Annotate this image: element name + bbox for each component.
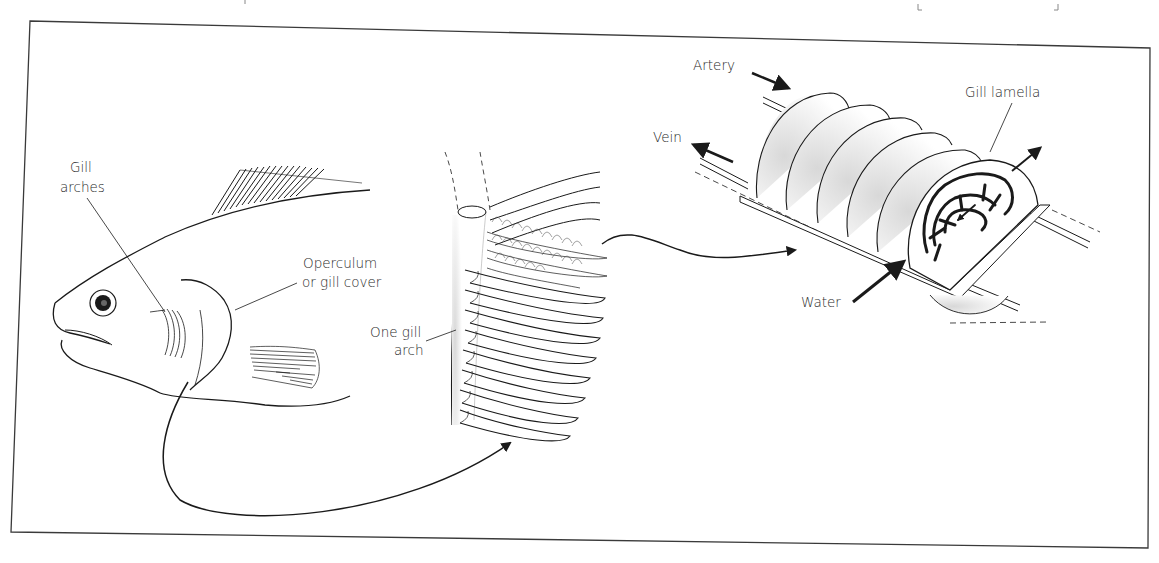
label-gill-lamella: Gill lamella bbox=[965, 84, 1040, 100]
label-operculum-1: Operculum bbox=[303, 255, 377, 271]
dorsal-fin bbox=[212, 166, 362, 215]
leader-gill-arches bbox=[87, 198, 165, 312]
leader-one-gill-arch bbox=[426, 330, 456, 341]
label-gill-arches-1: Gill bbox=[70, 159, 92, 175]
gill-arch-illustration bbox=[445, 152, 607, 441]
label-operculum-2: or gill cover bbox=[302, 274, 382, 290]
vein-arrow bbox=[694, 145, 733, 162]
label-artery: Artery bbox=[693, 57, 735, 73]
water-arrow bbox=[853, 262, 903, 302]
label-gill-arches-2: arches bbox=[60, 179, 105, 195]
label-one-gill-arch-1: One gill bbox=[370, 324, 421, 340]
label-water: Water bbox=[801, 294, 841, 310]
leader-operculum bbox=[235, 283, 297, 310]
figure-frame bbox=[11, 21, 1150, 548]
pectoral-fin bbox=[250, 346, 319, 388]
artery-arrow bbox=[752, 73, 788, 88]
gill-diagram: Gill arches Operculum or gill cover bbox=[0, 0, 1159, 563]
leader-gill-lamella bbox=[990, 103, 1012, 152]
scan-marks bbox=[245, 0, 1058, 10]
label-vein: Vein bbox=[653, 129, 682, 145]
gill-filament-illustration bbox=[695, 93, 1100, 323]
outflow-arrow bbox=[1012, 148, 1040, 171]
label-one-gill-arch-2: arch bbox=[394, 342, 424, 358]
connector-arrow-arch-to-filament bbox=[602, 235, 795, 258]
